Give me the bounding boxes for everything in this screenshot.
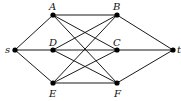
node-E <box>50 80 55 85</box>
node-B <box>114 12 119 17</box>
node-D <box>50 47 55 52</box>
node-label-E: E <box>48 88 57 99</box>
node-label-t: t <box>177 44 181 55</box>
edge-s-E <box>15 50 53 83</box>
node-label-F: F <box>113 88 122 99</box>
edge-B-t <box>117 15 173 50</box>
node-label-s: s <box>5 44 10 55</box>
edge-F-t <box>117 50 173 83</box>
graph-diagram: sADEBCFt <box>0 0 181 101</box>
nodes-group <box>12 12 175 85</box>
node-label-B: B <box>112 1 120 12</box>
node-label-C: C <box>113 37 121 48</box>
node-C <box>114 47 119 52</box>
edges-group <box>15 15 173 83</box>
node-F <box>114 80 119 85</box>
node-t <box>170 47 175 52</box>
node-label-A: A <box>48 1 56 12</box>
edge-s-A <box>15 15 53 50</box>
node-s <box>12 47 17 52</box>
node-label-D: D <box>48 37 57 48</box>
node-A <box>50 12 55 17</box>
